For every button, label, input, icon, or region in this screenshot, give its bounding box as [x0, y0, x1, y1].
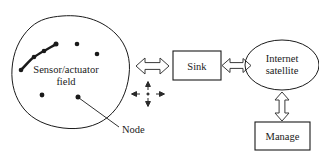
diagram-canvas: Sensor/actuator field Node Si: [0, 0, 319, 156]
node-dot: [95, 52, 100, 57]
node-callout-label: Node: [122, 124, 145, 135]
node-dot: [42, 49, 47, 54]
manage-box-label: Manage: [266, 131, 300, 142]
sink-to-satellite-arrow: [222, 59, 251, 73]
sensor-field-label-line2: field: [56, 76, 76, 87]
satellite-to-manage-arrow: [275, 92, 289, 121]
node-dot: [54, 42, 59, 47]
internet-satellite-label-line1: Internet: [266, 53, 299, 64]
node-dot: [32, 55, 37, 60]
node-dot: [75, 42, 80, 47]
node-dot: [40, 93, 45, 98]
sink-box-label: Sink: [187, 61, 207, 72]
internet-satellite-label-line2: satellite: [266, 65, 299, 76]
network-architecture-diagram: Sensor/actuator field Node Si: [0, 0, 319, 156]
multi-direction-arrows-icon: [132, 82, 165, 107]
node-dot: [19, 68, 24, 73]
field-to-sink-arrow: [136, 58, 169, 74]
sensor-field-label-line1: Sensor/actuator: [33, 64, 99, 75]
